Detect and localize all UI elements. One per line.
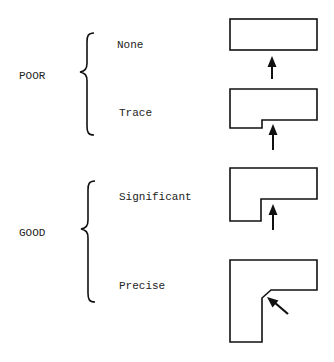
arrow-diagonal-icon-4 xyxy=(267,297,288,314)
diagram-graphics xyxy=(0,0,334,362)
shape-trace-stepped xyxy=(230,89,317,128)
diagram-canvas: POOR GOOD None Trace Significant Precise xyxy=(0,0,334,362)
brace-icon-poor xyxy=(80,33,94,135)
arrow-up-icon-1 xyxy=(268,56,277,79)
arrow-up-icon-3 xyxy=(269,204,278,230)
shape-none-rectangle xyxy=(230,19,317,50)
brace-icon-good xyxy=(81,181,95,302)
arrow-up-icon-2 xyxy=(269,124,278,150)
